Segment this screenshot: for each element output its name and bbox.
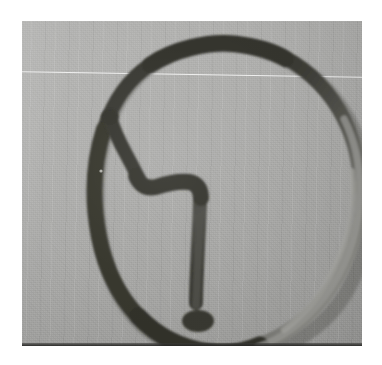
surface-speck [99, 169, 102, 172]
hand-drawn-figure [22, 21, 362, 346]
photograph [22, 21, 362, 346]
photo-page [0, 0, 382, 365]
